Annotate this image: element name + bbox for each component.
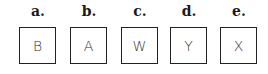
option-b: b. A: [70, 0, 108, 74]
letter-box: B: [19, 27, 56, 64]
letter-box: Y: [170, 27, 207, 64]
letter-box: X: [220, 27, 257, 64]
option-label: d.: [170, 3, 208, 19]
option-c: c. W: [121, 0, 159, 74]
option-label: b.: [70, 3, 108, 19]
option-label: a.: [19, 3, 57, 19]
option-label: c.: [121, 3, 159, 19]
option-label: e.: [220, 3, 258, 19]
letter-box: W: [121, 27, 158, 64]
option-a: a. B: [19, 0, 57, 74]
option-d: d. Y: [170, 0, 208, 74]
option-e: e. X: [220, 0, 258, 74]
letter-box: A: [70, 27, 107, 64]
